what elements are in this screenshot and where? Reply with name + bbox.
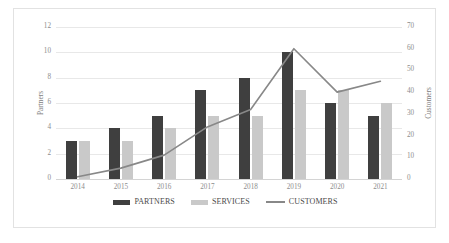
x-axis-tick-label: 2020 (316, 184, 359, 191)
x-axis-tick-label: 2016 (143, 184, 186, 191)
bar-pair (186, 27, 229, 179)
y-axis-left-tick-label: 4 (47, 124, 51, 131)
chart-container: 024681012 010203040506070 20142015201620… (13, 8, 436, 228)
category-group: 2016 (143, 27, 186, 179)
category-group: 2018 (229, 27, 272, 179)
bar-services[interactable] (252, 116, 263, 179)
category-group: 2021 (359, 27, 402, 179)
bar-services[interactable] (338, 90, 349, 179)
chart-legend: PARTNERSSERVICESCUSTOMERS (14, 198, 437, 206)
bar-partners[interactable] (66, 141, 77, 179)
x-axis-tick-label: 2019 (272, 184, 315, 191)
legend-line-swatch-icon (266, 201, 285, 203)
bar-partners[interactable] (239, 78, 250, 179)
category-group: 2015 (99, 27, 142, 179)
bar-partners[interactable] (325, 103, 336, 179)
y-axis-left-tick-label: 6 (47, 99, 51, 106)
legend-item[interactable]: PARTNERS (113, 198, 174, 206)
y-axis-right-tick-label: 10 (407, 153, 414, 160)
x-axis-tick-label: 2015 (99, 184, 142, 191)
bar-services[interactable] (295, 90, 306, 179)
gridline (56, 179, 402, 180)
bar-partners[interactable] (195, 90, 206, 179)
plot-area: 024681012 010203040506070 20142015201620… (56, 27, 402, 179)
bar-pair (316, 27, 359, 179)
x-axis-tick-label: 2018 (229, 184, 272, 191)
bar-services[interactable] (165, 128, 176, 179)
category-group: 2020 (316, 27, 359, 179)
y-axis-left-title: Partners (36, 91, 45, 115)
category-group: 2017 (186, 27, 229, 179)
legend-label: PARTNERS (134, 198, 174, 206)
y-axis-right-tick-label: 60 (407, 45, 414, 52)
y-axis-left-tick-label: 2 (47, 150, 51, 157)
y-axis-right-tick-label: 0 (407, 175, 411, 182)
legend-label: SERVICES (212, 198, 250, 206)
x-axis-tick-label: 2021 (359, 184, 402, 191)
bar-pair (56, 27, 99, 179)
y-axis-right-title: Customers (424, 87, 433, 119)
legend-bar-swatch-dark-icon (113, 200, 130, 205)
bar-pair (99, 27, 142, 179)
bar-services[interactable] (208, 116, 219, 179)
legend-label: CUSTOMERS (289, 198, 338, 206)
legend-item[interactable]: CUSTOMERS (266, 198, 338, 206)
bar-pair (229, 27, 272, 179)
y-axis-right-tick-label: 70 (407, 23, 414, 30)
y-axis-right-tick-label: 50 (407, 66, 414, 73)
bar-partners[interactable] (152, 116, 163, 179)
legend-bar-swatch-light-icon (191, 200, 208, 205)
bar-services[interactable] (122, 141, 133, 179)
bar-pair (143, 27, 186, 179)
x-axis-tick-label: 2014 (56, 184, 99, 191)
bar-partners[interactable] (282, 52, 293, 179)
bar-services[interactable] (381, 103, 392, 179)
bar-services[interactable] (79, 141, 90, 179)
x-axis-tick-label: 2017 (186, 184, 229, 191)
category-group: 2014 (56, 27, 99, 179)
y-axis-left-tick-label: 8 (47, 74, 51, 81)
bar-pair (272, 27, 315, 179)
legend-item[interactable]: SERVICES (191, 198, 250, 206)
bar-partners[interactable] (109, 128, 120, 179)
bar-pair (359, 27, 402, 179)
y-axis-left-tick-label: 12 (44, 23, 51, 30)
y-axis-right-tick-label: 20 (407, 132, 414, 139)
y-axis-left-tick-label: 10 (44, 48, 51, 55)
y-axis-right-tick-label: 30 (407, 110, 414, 117)
bar-partners[interactable] (368, 116, 379, 179)
y-axis-left-tick-label: 0 (47, 175, 51, 182)
category-group: 2019 (272, 27, 315, 179)
y-axis-right-tick-label: 40 (407, 88, 414, 95)
